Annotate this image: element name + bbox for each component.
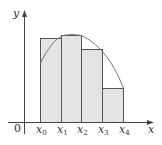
partition-label-x4: x4 xyxy=(119,123,130,137)
rectangles xyxy=(41,36,124,123)
rectangle-3 xyxy=(82,50,103,123)
y-axis-arrow-icon xyxy=(22,10,27,17)
partition-label-x1: x1 xyxy=(57,123,68,137)
origin-label: 0 xyxy=(14,122,21,135)
rectangle-2 xyxy=(62,36,82,123)
x-axis-label: x xyxy=(148,123,155,136)
riemann-sum-diagram: y x 0 x0 x1 x2 x3 x4 xyxy=(0,0,162,145)
partition-labels: x0 x1 x2 x3 x4 xyxy=(36,123,130,137)
rectangle-1 xyxy=(41,39,62,123)
y-axis-label: y xyxy=(12,7,20,20)
partition-label-x3: x3 xyxy=(98,123,109,137)
partition-label-x2: x2 xyxy=(77,123,88,137)
partition-label-x0: x0 xyxy=(36,123,47,137)
rectangle-4 xyxy=(103,89,124,123)
